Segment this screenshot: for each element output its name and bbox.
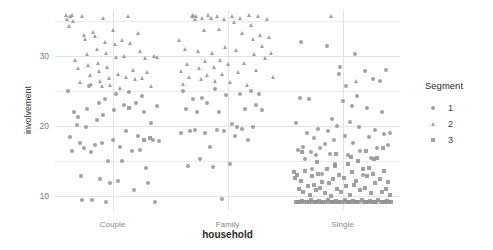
- data-point-circle: [181, 89, 185, 93]
- data-point-circle: [309, 150, 313, 154]
- data-point-circle: [307, 97, 311, 101]
- data-point-square: [381, 146, 385, 150]
- data-point-triangle: [194, 14, 198, 18]
- data-point-circle: [142, 110, 146, 114]
- data-point-triangle: [70, 13, 74, 17]
- legend-item[interactable]: 1: [425, 100, 463, 116]
- data-point-square: [148, 136, 152, 140]
- data-point-square: [306, 184, 310, 188]
- data-point-triangle: [212, 65, 216, 69]
- data-point-triangle: [234, 48, 238, 52]
- data-point-square: [327, 181, 331, 185]
- data-point-circle: [89, 150, 93, 154]
- data-point-triangle: [181, 82, 185, 86]
- data-point-triangle: [100, 84, 104, 88]
- data-point-circle: [355, 94, 359, 98]
- data-point-circle: [120, 159, 124, 163]
- data-point-triangle: [114, 55, 118, 59]
- data-point-square: [386, 180, 390, 184]
- data-point-circle: [230, 122, 234, 126]
- data-point-circle: [222, 129, 226, 133]
- data-point-triangle: [177, 38, 181, 42]
- data-point-circle: [203, 131, 207, 135]
- data-point-circle: [337, 72, 341, 76]
- data-point-square: [310, 174, 314, 178]
- data-point-circle: [299, 40, 303, 44]
- data-point-triangle: [213, 79, 217, 83]
- data-point-square: [354, 179, 358, 183]
- legend-item[interactable]: 2: [425, 116, 463, 132]
- data-point-triangle: [83, 37, 87, 41]
- data-point-circle: [68, 135, 72, 139]
- data-point-circle: [149, 121, 153, 125]
- data-point-triangle: [183, 47, 187, 51]
- data-point-circle: [257, 92, 261, 96]
- data-point-triangle: [202, 28, 206, 32]
- data-point-circle: [101, 113, 105, 117]
- legend-item[interactable]: 3: [425, 132, 463, 148]
- data-point-square: [364, 149, 368, 153]
- data-point-circle: [80, 198, 84, 202]
- data-point-circle: [316, 127, 320, 131]
- data-point-triangle: [97, 69, 101, 73]
- data-point-circle: [111, 138, 115, 142]
- data-point-square: [299, 179, 303, 183]
- data-point-circle: [365, 106, 369, 110]
- data-point-square: [363, 186, 367, 190]
- data-point-triangle: [218, 58, 222, 62]
- data-point-square: [339, 190, 343, 194]
- data-point-circle: [380, 110, 384, 114]
- data-point-triangle: [149, 84, 153, 88]
- data-point-triangle: [245, 83, 249, 87]
- data-point-square: [346, 162, 350, 166]
- data-point-triangle: [140, 76, 144, 80]
- data-point-circle: [124, 129, 128, 133]
- legend-item-label: 2: [448, 119, 453, 129]
- data-point-triangle: [136, 31, 140, 35]
- data-point-circle: [136, 134, 140, 138]
- data-point-square: [127, 106, 131, 110]
- data-point-triangle: [124, 75, 128, 79]
- data-point-square: [352, 183, 356, 187]
- chart-root: 102030CoupleFamilySingle involvement hou…: [0, 0, 493, 250]
- data-point-square: [367, 166, 371, 170]
- data-point-circle: [238, 92, 242, 96]
- data-point-circle: [130, 149, 134, 153]
- data-point-triangle: [329, 14, 333, 18]
- gridline-vertical: [228, 10, 229, 210]
- triangle-marker: [425, 116, 441, 132]
- data-point-circle: [100, 141, 104, 145]
- data-point-triangle: [107, 76, 111, 80]
- data-point-square: [142, 138, 146, 142]
- y-axis-title: involvement: [23, 86, 33, 134]
- y-axis-tick-label: 30: [40, 51, 49, 61]
- data-point-circle: [157, 139, 161, 143]
- data-point-triangle: [71, 19, 75, 23]
- data-point-circle: [384, 68, 388, 72]
- data-point-circle: [353, 52, 357, 56]
- data-point-circle: [186, 164, 190, 168]
- data-point-circle: [318, 146, 322, 150]
- data-point-square: [348, 193, 352, 197]
- data-point-triangle: [122, 54, 126, 58]
- data-point-triangle: [76, 66, 80, 70]
- data-point-circle: [328, 152, 332, 156]
- data-point-circle: [66, 89, 70, 93]
- data-point-triangle: [120, 38, 124, 42]
- data-point-circle: [305, 131, 309, 135]
- data-point-square: [344, 184, 348, 188]
- data-point-triangle: [203, 59, 207, 63]
- data-point-triangle: [247, 13, 251, 17]
- data-point-circle: [335, 124, 339, 128]
- data-point-triangle: [251, 37, 255, 41]
- data-point-triangle: [86, 63, 90, 67]
- data-point-circle: [243, 107, 247, 111]
- data-point-circle: [310, 167, 314, 171]
- data-point-circle: [303, 157, 307, 161]
- data-point-triangle: [118, 86, 122, 90]
- data-point-circle: [114, 92, 118, 96]
- data-point-triangle: [89, 82, 93, 86]
- data-point-circle: [76, 115, 80, 119]
- data-point-circle: [122, 103, 126, 107]
- data-point-square: [315, 160, 319, 164]
